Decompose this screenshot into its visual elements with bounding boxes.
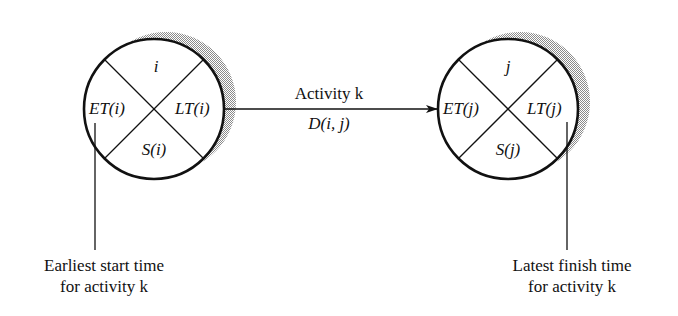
earliest-start-caption: Earliest start time for activity k — [44, 255, 164, 297]
latest-finish-caption: Latest finish time for activity k — [513, 255, 632, 297]
node-i-earliest-time: ET(i) — [89, 99, 125, 119]
node-j-number: j — [506, 57, 511, 77]
latest-finish-caption-line2: for activity k — [513, 276, 632, 297]
node-i-number: i — [154, 57, 159, 77]
node-j-latest-time: LT(j) — [527, 99, 562, 119]
node-j-earliest-time: ET(j) — [443, 99, 479, 119]
node-j-slack: S(j) — [496, 140, 521, 160]
earliest-start-caption-line2: for activity k — [44, 276, 164, 297]
node-i-latest-time: LT(i) — [175, 99, 210, 119]
activity-label: Activity k — [295, 84, 363, 104]
earliest-start-caption-line1: Earliest start time — [44, 255, 164, 276]
activity-duration: D(i, j) — [308, 114, 350, 134]
node-i-slack: S(i) — [142, 140, 167, 160]
latest-finish-caption-line1: Latest finish time — [513, 255, 632, 276]
